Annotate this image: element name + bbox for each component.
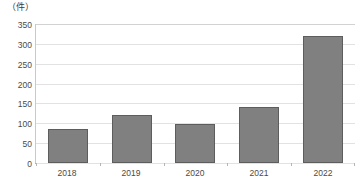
x-axis-tick-label: 2020 xyxy=(163,168,227,179)
y-axis-tick-label: 50 xyxy=(23,140,32,149)
x-axis-tick-mark xyxy=(164,163,165,166)
bar[interactable] xyxy=(112,115,152,163)
y-axis-tick-label: 0 xyxy=(27,160,32,169)
bar[interactable] xyxy=(175,124,215,163)
x-axis-tick-label: 2021 xyxy=(227,168,291,179)
x-axis-tick-mark xyxy=(36,163,37,166)
x-axis-tick-mark xyxy=(291,163,292,166)
x-axis-tick-label: 2022 xyxy=(291,168,355,179)
y-axis-tick-label: 300 xyxy=(18,40,32,49)
x-axis-tick-label: 2018 xyxy=(35,168,99,179)
x-axis-tick-mark xyxy=(100,163,101,166)
bar-slot xyxy=(164,24,228,163)
bar-slot xyxy=(100,24,164,163)
bars-layer xyxy=(36,24,355,163)
y-axis-tick-label: 250 xyxy=(18,60,32,69)
y-axis-unit-label: （件） xyxy=(7,1,34,13)
bar[interactable] xyxy=(239,107,279,163)
x-axis-tick-label: 2019 xyxy=(99,168,163,179)
bar[interactable] xyxy=(48,129,88,163)
x-axis-tick-mark xyxy=(354,163,355,166)
y-axis-tick-label: 200 xyxy=(18,80,32,89)
bar-slot xyxy=(36,24,100,163)
gridline: 0 xyxy=(36,163,355,164)
y-axis-tick-label: 150 xyxy=(18,100,32,109)
y-axis-tick-label: 350 xyxy=(18,21,32,30)
bar[interactable] xyxy=(303,36,343,163)
x-axis-labels: 20182019202020212022 xyxy=(35,168,355,179)
plot-area: 350300250200150100500 xyxy=(35,24,355,164)
bar-slot xyxy=(227,24,291,163)
x-axis-tick-mark xyxy=(227,163,228,166)
y-axis-tick-label: 100 xyxy=(18,120,32,129)
bar-slot xyxy=(291,24,355,163)
bar-chart: （件） 350300250200150100500 20182019202020… xyxy=(0,0,363,196)
